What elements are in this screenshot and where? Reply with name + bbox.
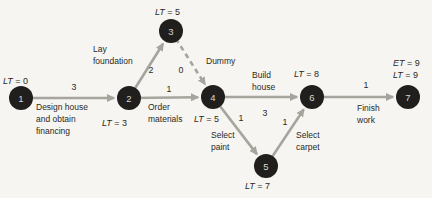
edge-activity-4-6-line1: Build	[252, 70, 271, 80]
edge-activity-6-7-line2: work	[356, 115, 376, 125]
edge-activity-2-4-line2: materials	[148, 114, 182, 124]
edge-duration-2-4: 1	[167, 84, 172, 94]
annotation-node7-6: ET = 9	[393, 58, 420, 68]
edge-duration-1-2: 3	[72, 82, 77, 92]
annotation-node5-4: LT = 7	[245, 181, 270, 191]
edge-activity-2-4-line1: Order	[148, 102, 170, 112]
edge-activity-1-2-line1: Design house	[36, 102, 88, 112]
edge-duration-3-4: 0	[179, 65, 184, 75]
node-number-1: 1	[18, 93, 23, 104]
edge-duration-6-7: 1	[364, 80, 369, 90]
edge-activity-2-3-line2: foundation	[93, 56, 133, 66]
edge-activity-5-6-line2: carpet	[296, 142, 320, 152]
edge-activity-2-3-line1: Lay	[93, 44, 107, 54]
annotation-node1-0: LT = 0	[3, 76, 28, 86]
edge-activity-5-6-line1: Select	[296, 130, 320, 140]
edge-duration-4-6: 3	[263, 108, 268, 118]
annotation-node6-5: LT = 8	[294, 69, 319, 79]
edge-activity-4-6-line2: house	[252, 82, 275, 92]
edge-duration-4-5: 1	[239, 113, 244, 123]
node-number-3: 3	[168, 26, 173, 37]
edge-activity-1-2-line2: and obtain	[36, 114, 76, 124]
edge-activity-4-5-line2: paint	[211, 142, 230, 152]
annotation-node3-2: LT = 5	[155, 7, 180, 17]
node-number-4: 4	[210, 92, 215, 103]
annotation-node7-7: LT = 9	[393, 70, 418, 80]
node-number-2: 2	[126, 93, 131, 104]
annotation-node4-3: LT = 5	[194, 114, 219, 124]
edge-activity-1-2-line3: financing	[36, 126, 70, 136]
edge-duration-5-6: 1	[283, 117, 288, 127]
edge-activity-6-7-line1: Finish	[357, 103, 380, 113]
annotation-node2-1: LT = 3	[102, 118, 127, 128]
project-network-figure: 32013111Design houseand obtainfinancingL…	[0, 0, 432, 198]
node-number-7: 7	[405, 92, 410, 103]
node-number-5: 5	[263, 161, 268, 172]
edge-activity-4-5-line1: Select	[211, 130, 235, 140]
network-svg: 32013111Design houseand obtainfinancingL…	[0, 0, 432, 198]
edge-duration-2-3: 2	[149, 65, 154, 75]
edge-activity-3-4-line1: Dummy	[206, 56, 236, 66]
node-number-6: 6	[309, 92, 314, 103]
